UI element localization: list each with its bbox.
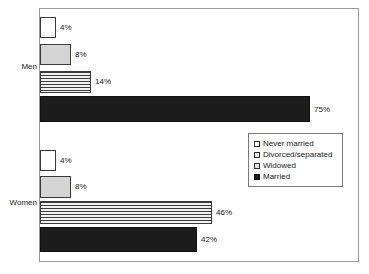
value-label-women-divorced-separated: 8% bbox=[75, 182, 87, 191]
black-square-icon bbox=[254, 174, 260, 180]
legend: Never married Divorced/separated Widowed… bbox=[248, 133, 343, 187]
value-label-men-divorced-separated: 8% bbox=[75, 50, 87, 59]
category-label-men: Men bbox=[6, 62, 37, 71]
value-label-men-married: 75% bbox=[314, 105, 330, 114]
bar-men-divorced-separated bbox=[40, 44, 71, 65]
bar-women-divorced-separated bbox=[40, 176, 71, 198]
bar-women-never-married bbox=[40, 150, 56, 171]
white-square-icon bbox=[254, 141, 260, 147]
legend-item-married: Married bbox=[254, 171, 338, 182]
bar-men-married bbox=[40, 96, 310, 122]
bar-women-married bbox=[40, 227, 197, 252]
bar-men-never-married bbox=[40, 17, 56, 38]
value-label-men-never-married: 4% bbox=[60, 23, 72, 32]
bar-men-widowed bbox=[40, 71, 91, 93]
legend-label-divorced-separated: Divorced/separated bbox=[263, 150, 332, 159]
value-label-women-widowed: 46% bbox=[216, 208, 232, 217]
hatched-square-icon bbox=[254, 163, 260, 169]
value-label-men-widowed: 14% bbox=[95, 77, 111, 86]
value-label-women-never-married: 4% bbox=[60, 156, 72, 165]
legend-label-never-married: Never married bbox=[263, 139, 314, 148]
legend-label-married: Married bbox=[263, 172, 290, 181]
legend-label-widowed: Widowed bbox=[263, 161, 296, 170]
light-gray-square-icon bbox=[254, 152, 260, 158]
legend-item-never-married: Never married bbox=[254, 138, 338, 149]
legend-item-widowed: Widowed bbox=[254, 160, 338, 171]
value-label-women-married: 42% bbox=[201, 235, 217, 244]
bar-women-widowed bbox=[40, 201, 212, 224]
legend-item-divorced-separated: Divorced/separated bbox=[254, 149, 338, 160]
bar-chart: Men Women 4% 8% 14% 75% 4% 8% 46% 42% Ne… bbox=[0, 0, 369, 274]
category-label-women: Women bbox=[0, 198, 37, 207]
